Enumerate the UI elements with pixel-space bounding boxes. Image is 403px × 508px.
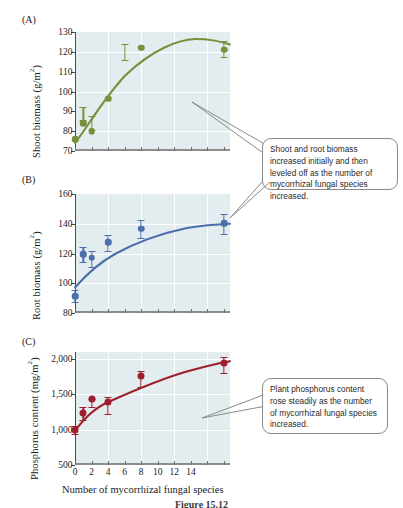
y-tick-label: 2,000 [51, 354, 72, 364]
figure-caption: Figure 15.12 [0, 499, 403, 508]
data-point [138, 45, 145, 52]
panel-a-y-axis-label: Shoot biomass (g/m2) [28, 30, 42, 158]
callout-biomass: Shoot and root biomass increased initial… [262, 138, 398, 190]
data-point [72, 136, 79, 143]
callout-phosphorus-pointer [200, 392, 270, 420]
panel-b-y-axis-label: Root biomass (g/m2) [28, 192, 42, 320]
x-tick-label: 4 [106, 467, 111, 477]
panel-c-y-axis-label: Phosphorus content (mg/m2) [26, 350, 40, 480]
y-tick-label: 140 [58, 219, 72, 229]
panel-a-label: (A) [22, 14, 36, 25]
panel-b-label: (B) [22, 174, 35, 185]
panel-c-label: (C) [22, 336, 35, 347]
data-point [105, 398, 112, 405]
x-tick-label: 6 [122, 467, 127, 477]
data-point [221, 359, 228, 366]
x-tick-label: 14 [186, 467, 196, 477]
y-tick-label: 110 [59, 67, 73, 77]
y-tick-label: 120 [58, 249, 72, 259]
y-tick-label: 1,500 [51, 389, 72, 399]
panel-b-plot-area: 160 140 120 100 80 [75, 194, 230, 313]
data-point [72, 293, 79, 300]
y-tick-label: 80 [63, 126, 73, 136]
y-tick-label: 100 [58, 278, 72, 288]
y-tick-label: 160 [58, 189, 72, 199]
panel-b-fit-curve [75, 194, 230, 313]
data-point [105, 95, 112, 102]
x-tick-label: 8 [139, 467, 144, 477]
y-tick-label: 1,000 [51, 425, 72, 435]
y-tick-label: 500 [58, 460, 72, 470]
x-tick-label: 2 [89, 467, 94, 477]
data-point [88, 128, 95, 135]
y-tick-label: 70 [63, 146, 73, 156]
panel-b: (B) Root biomass (g/m2) 160 140 120 100 … [0, 174, 403, 336]
y-tick-label: 80 [63, 308, 73, 318]
y-tick-label: 90 [63, 106, 73, 116]
data-point [138, 225, 145, 232]
data-point [88, 255, 95, 262]
data-point [80, 409, 87, 416]
y-tick-label: 130 [58, 27, 72, 37]
x-axis-label: Number of mycorrhizal fungal species [62, 484, 224, 495]
y-tick-label: 120 [58, 47, 72, 57]
callout-biomass-pointer-b [228, 180, 278, 222]
x-tick-label: 10 [153, 467, 163, 477]
x-tick-label: 12 [170, 467, 180, 477]
data-point [72, 426, 79, 433]
x-tick-label: 0 [73, 467, 78, 477]
data-point [138, 373, 145, 380]
data-point [88, 396, 95, 403]
data-point [80, 120, 87, 127]
data-point [221, 220, 228, 227]
callout-phosphorus: Plant phosphorus content rose steadily a… [262, 378, 388, 434]
data-point [221, 47, 228, 54]
y-tick-label: 100 [58, 87, 72, 97]
data-point [105, 239, 112, 246]
data-point [80, 251, 87, 258]
